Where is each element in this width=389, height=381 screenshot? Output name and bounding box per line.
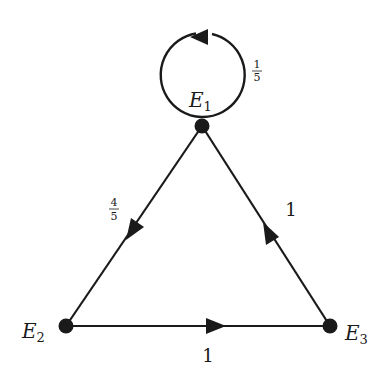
node-e3 — [323, 319, 338, 334]
node-label-e2: E2 — [21, 319, 45, 345]
loop-arrow-icon — [190, 29, 208, 45]
node-e1 — [195, 119, 210, 134]
weight-e3-e1: 1 — [285, 199, 296, 220]
svg-text:5: 5 — [111, 210, 118, 223]
arrow-icon — [126, 218, 144, 240]
edge-e2-e3 — [66, 318, 330, 334]
edge-e1-e2 — [66, 126, 202, 326]
svg-text:5: 5 — [254, 71, 261, 84]
node-label-e1: E1 — [188, 88, 212, 114]
svg-text:4: 4 — [111, 196, 118, 209]
node-e2 — [59, 319, 74, 334]
edge-e3-e1 — [202, 126, 330, 326]
arrow-icon — [206, 318, 226, 334]
weight-e1-e2: 4 5 — [109, 196, 119, 223]
markov-chain-diagram: E1 E2 E3 1 5 4 5 1 1 — [0, 0, 389, 381]
node-label-e3: E3 — [344, 321, 368, 347]
svg-text:1: 1 — [254, 58, 261, 71]
weight-e1-e1: 1 5 — [252, 58, 262, 84]
weight-e2-e3: 1 — [202, 345, 213, 366]
